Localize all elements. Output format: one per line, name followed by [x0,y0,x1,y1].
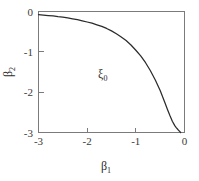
y-tick-labels: 0 -1 -2 -3 [24,6,34,139]
x-tick-label-3: 0 [182,135,188,147]
boundary-curve [39,15,181,133]
svg-text:ξ0: ξ0 [98,67,107,83]
y-tick-label-2: -2 [24,86,33,98]
svg-text:β1: β1 [101,159,111,175]
y-tick-label-1: -1 [24,46,33,58]
region-label-xi0: ξ0 [98,67,107,83]
plot-canvas: -3 -2 -1 0 0 -1 -2 -3 β1 β2 ξ0 [0,0,199,181]
y-tick-label-0: 0 [28,6,34,18]
svg-text:β2: β2 [1,67,17,77]
x-tick-label-0: -3 [34,135,44,147]
y-axis-title: β2 [1,67,17,77]
x-tick-label-2: -1 [131,135,140,147]
y-axis-ticks [39,12,44,133]
x-axis-title-subscript: 1 [107,166,111,175]
axes-frame [39,12,185,133]
x-axis-title: β1 [101,159,111,175]
region-label-subscript: 0 [103,74,107,83]
chart-figure: -3 -2 -1 0 0 -1 -2 -3 β1 β2 ξ0 [0,0,199,181]
plot-frame-box [39,12,185,133]
x-axis-ticks [39,128,185,133]
x-tick-label-1: -2 [83,135,92,147]
y-axis-title-subscript: 2 [8,67,17,71]
y-tick-label-3: -3 [24,127,34,139]
x-tick-labels: -3 -2 -1 0 [34,135,188,147]
